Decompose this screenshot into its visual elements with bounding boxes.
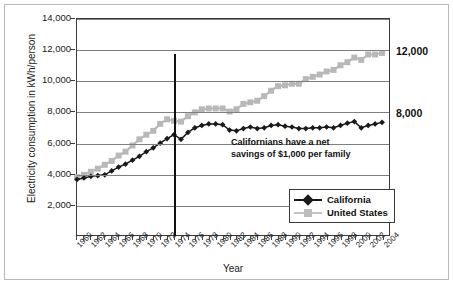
data-point-marker [206, 106, 212, 112]
right-value-label: 8,000 [396, 107, 422, 119]
y-axis-tick-mark [70, 143, 75, 144]
data-point-marker [206, 121, 212, 127]
gridline [77, 19, 389, 20]
data-point-marker [109, 158, 115, 164]
data-point-marker [372, 52, 378, 58]
data-point-marker [344, 59, 350, 65]
data-point-marker [247, 124, 253, 130]
x-axis-tick-mark [83, 236, 84, 240]
x-axis-tick-mark [195, 236, 196, 240]
data-point-marker [261, 93, 267, 99]
data-point-marker [213, 106, 219, 112]
data-point-marker [296, 126, 302, 132]
right-value-label: 12,000 [396, 45, 428, 57]
gridline [77, 81, 389, 82]
annotation-line-1: Californians have a net [231, 137, 383, 149]
data-point-marker [275, 122, 281, 128]
y-axis-tick-mark [70, 174, 75, 175]
x-axis-tick-mark [334, 236, 335, 240]
data-point-marker [282, 82, 288, 88]
gridline [77, 112, 389, 113]
data-point-marker [150, 128, 156, 134]
x-axis-tick-mark [146, 236, 147, 240]
data-point-marker [365, 123, 371, 129]
x-axis-tick-mark [153, 236, 154, 240]
data-point-marker [123, 161, 129, 167]
data-point-marker [199, 106, 205, 112]
x-axis-tick-mark [362, 236, 363, 240]
data-point-marker [345, 120, 351, 126]
data-point-marker [282, 123, 288, 129]
y-axis-tick-label: 4,000 [11, 168, 71, 179]
x-axis-tick-mark [181, 236, 182, 240]
data-point-marker [109, 168, 115, 174]
legend-label-united-states: United States [327, 207, 388, 218]
data-point-marker [268, 123, 274, 129]
gridline [77, 175, 389, 176]
data-point-marker [372, 121, 378, 127]
x-axis-tick-mark [306, 236, 307, 240]
data-point-marker [95, 166, 101, 172]
data-point-marker [199, 123, 205, 129]
y-axis-tick-label: 6,000 [11, 137, 71, 148]
data-point-marker [331, 67, 337, 73]
y-axis-title: Electricity consumption in kWh/person [26, 9, 37, 229]
data-point-marker [164, 116, 170, 122]
event-marker-line-1974 [174, 54, 176, 236]
data-point-marker [185, 113, 191, 119]
data-point-marker [337, 62, 343, 68]
x-axis-tick-mark [209, 236, 210, 240]
data-point-marker [379, 119, 385, 125]
data-point-marker [116, 153, 122, 159]
x-axis-tick-mark [292, 236, 293, 240]
data-point-marker [247, 99, 253, 105]
data-point-marker [241, 126, 247, 132]
legend-swatch-united-states-icon [294, 207, 322, 218]
legend-label-california: California [327, 194, 371, 205]
x-axis-tick-mark [202, 236, 203, 240]
data-point-marker [102, 162, 108, 168]
x-axis-title: Year [76, 263, 390, 274]
x-axis-tick-mark [223, 236, 224, 240]
data-point-marker [317, 125, 323, 131]
x-axis-tick-mark [125, 236, 126, 240]
legend-item-california: California [294, 193, 388, 206]
data-point-marker [268, 88, 274, 94]
data-point-marker [351, 55, 357, 61]
data-point-marker [233, 106, 239, 112]
y-axis-tick-mark [70, 205, 75, 206]
x-axis-tick-mark [278, 236, 279, 240]
x-axis-tick-mark [320, 236, 321, 240]
data-point-marker [317, 72, 323, 78]
legend-swatch-california-icon [294, 194, 322, 205]
y-axis-tick-mark [70, 49, 75, 50]
y-axis-tick-label: 14,000 [11, 12, 71, 23]
data-point-marker [220, 106, 226, 112]
y-axis-tick-mark [70, 18, 75, 19]
legend-item-united-states: United States [294, 206, 388, 219]
x-axis-tick-mark [216, 236, 217, 240]
x-axis-tick-mark [264, 236, 265, 240]
data-point-marker [303, 126, 309, 132]
annotation-line-2: savings of $1,000 per family [231, 149, 383, 161]
data-point-marker [157, 121, 163, 127]
data-point-marker [358, 57, 364, 63]
x-axis-tick-mark [139, 236, 140, 240]
chart-figure: Electricity consumption in kWh/person Ca… [0, 0, 453, 284]
data-point-marker [365, 52, 371, 58]
data-point-marker [240, 101, 246, 107]
data-point-marker [331, 125, 337, 131]
y-axis-tick-label: 10,000 [11, 74, 71, 85]
data-point-marker [275, 83, 281, 89]
y-axis-tick-label: 8,000 [11, 105, 71, 116]
data-point-marker [123, 149, 129, 155]
x-axis-tick-mark [167, 236, 168, 240]
data-point-marker [310, 125, 316, 131]
y-axis-tick-label: 2,000 [11, 199, 71, 210]
x-axis-tick-mark [160, 236, 161, 240]
data-point-marker [213, 121, 219, 127]
data-point-marker [136, 136, 142, 142]
x-axis-tick-mark [230, 236, 231, 240]
chart-legend: California United States [289, 189, 395, 223]
y-axis-tick-mark [70, 80, 75, 81]
